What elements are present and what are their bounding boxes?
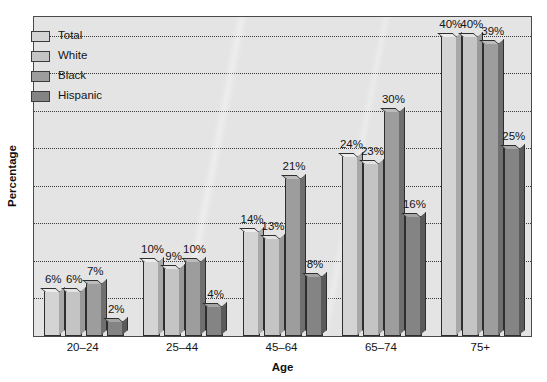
- bar: [483, 43, 500, 336]
- bar: [306, 276, 323, 336]
- legend-item: Black: [31, 67, 102, 85]
- bar: [405, 216, 422, 336]
- bar: [164, 268, 181, 336]
- bar: [206, 306, 223, 336]
- bar-top-face: [401, 213, 421, 217]
- bar-value-label: 8%: [300, 258, 331, 270]
- bar-value-label: 25%: [498, 130, 529, 142]
- bar-chart: Percentage 6%6%7%2%10%9%10%4%14%13%21%8%…: [0, 0, 547, 382]
- legend-item: Total: [31, 27, 102, 45]
- bar-top-face: [480, 40, 500, 44]
- bar: [342, 156, 359, 336]
- bar-top-face: [160, 265, 180, 269]
- bar-top-face: [338, 153, 358, 157]
- legend-item-label: Total: [58, 30, 82, 42]
- bar-top-face: [61, 288, 81, 292]
- x-tick-label: 45–64: [232, 341, 331, 353]
- bar-value-label: 13%: [258, 220, 289, 232]
- bar-top-face: [202, 303, 222, 307]
- bar-top-face: [239, 228, 259, 232]
- bar-top-face: [438, 33, 458, 37]
- x-tick-label: 75+: [431, 341, 530, 353]
- bar-top-face: [281, 175, 301, 179]
- bar-value-label: 21%: [279, 160, 310, 172]
- bar-value-label: 4%: [200, 288, 231, 300]
- legend-item: Hispanic: [31, 87, 102, 105]
- bar-top-face: [359, 160, 379, 164]
- bar-value-label: 30%: [378, 93, 409, 105]
- bar-value-label: 2%: [101, 303, 132, 315]
- bar: [264, 238, 281, 336]
- bar-top-face: [139, 258, 159, 262]
- legend-item: White: [31, 47, 102, 65]
- bar-top-face: [260, 235, 280, 239]
- y-axis-title: Percentage: [6, 111, 18, 241]
- bar-value-label: 16%: [399, 198, 430, 210]
- bar-top-face: [459, 33, 479, 37]
- x-tick-label: 25–44: [132, 341, 231, 353]
- plot-area: 6%6%7%2%10%9%10%4%14%13%21%8%24%23%30%16…: [33, 16, 532, 337]
- bar-side-face: [122, 317, 128, 335]
- bar: [143, 261, 160, 336]
- bar-value-label: 7%: [80, 265, 111, 277]
- legend-swatch-icon: [31, 91, 50, 102]
- bar-value-label: 23%: [357, 145, 388, 157]
- bar: [504, 148, 521, 336]
- legend-item-label: Hispanic: [58, 90, 102, 102]
- x-tick-label: 20–24: [33, 341, 132, 353]
- bar: [363, 163, 380, 336]
- bar: [65, 291, 82, 336]
- bar-top-face: [103, 318, 123, 322]
- bar: [44, 291, 61, 336]
- bar-top-face: [302, 273, 322, 277]
- legend-swatch-icon: [31, 31, 50, 42]
- bar-side-face: [420, 212, 426, 335]
- legend-swatch-icon: [31, 51, 50, 62]
- legend-swatch-icon: [31, 71, 50, 82]
- legend: TotalWhiteBlackHispanic: [31, 27, 102, 107]
- bar: [441, 36, 458, 336]
- bar: [243, 231, 260, 336]
- bar-value-label: 10%: [179, 243, 210, 255]
- legend-item-label: Black: [58, 70, 86, 82]
- bar-side-face: [321, 272, 327, 335]
- legend-item-label: White: [58, 50, 87, 62]
- bar-top-face: [501, 145, 521, 149]
- bar-top-face: [40, 288, 60, 292]
- bar: [462, 36, 479, 336]
- bar-value-label: 39%: [477, 25, 508, 37]
- bar-top-face: [380, 108, 400, 112]
- bar-side-face: [519, 144, 525, 335]
- x-tick-label: 65–74: [331, 341, 430, 353]
- bars-layer: 6%6%7%2%10%9%10%4%14%13%21%8%24%23%30%16…: [34, 17, 531, 336]
- x-axis-title: Age: [33, 361, 532, 373]
- bar: [107, 321, 124, 336]
